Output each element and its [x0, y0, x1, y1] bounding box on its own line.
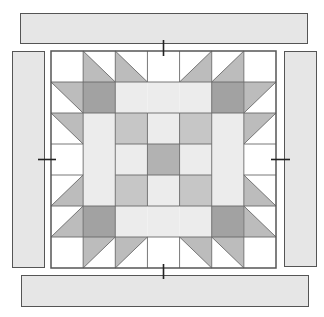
square-cell	[212, 82, 244, 113]
square-cell	[115, 175, 147, 206]
square-cell	[147, 144, 179, 175]
square-cell	[147, 175, 179, 206]
square-cell	[83, 175, 115, 206]
square-cell	[115, 206, 147, 237]
square-cell	[115, 113, 147, 144]
square-cell	[244, 51, 276, 82]
square-cell	[180, 206, 212, 237]
square-cell	[147, 113, 179, 144]
square-cell	[83, 113, 115, 144]
square-cell	[115, 144, 147, 175]
square-cell	[83, 82, 115, 113]
quilt-block	[0, 0, 324, 317]
square-cell	[212, 206, 244, 237]
square-cell	[147, 206, 179, 237]
square-cell	[244, 237, 276, 268]
square-cell	[212, 144, 244, 175]
square-cell	[115, 82, 147, 113]
square-cell	[180, 82, 212, 113]
square-cell	[212, 175, 244, 206]
square-cell	[180, 113, 212, 144]
square-cell	[83, 206, 115, 237]
square-cell	[147, 82, 179, 113]
square-cell	[180, 175, 212, 206]
square-cell	[51, 237, 83, 268]
square-cell	[180, 144, 212, 175]
square-cell	[212, 113, 244, 144]
square-cell	[83, 144, 115, 175]
square-cell	[51, 51, 83, 82]
square-cell	[147, 237, 179, 268]
